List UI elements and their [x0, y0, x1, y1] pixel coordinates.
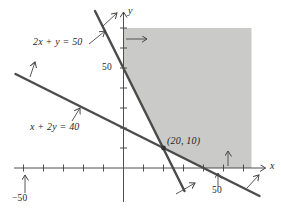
y-axis-tick-label-50: 50	[102, 63, 112, 73]
constraint2-equation-label: x + 2y = 40	[30, 122, 80, 132]
feasible-region	[124, 28, 252, 168]
label-arrow-eq2	[72, 108, 80, 121]
intersection-point-label: (20, 10)	[167, 136, 200, 146]
graph-canvas	[0, 0, 281, 213]
y-axis-label: y	[128, 6, 133, 16]
intersection-point	[161, 146, 166, 151]
halfplane-arrow-line1-bottom	[176, 183, 195, 194]
x-axis-tick-label-neg50: −50	[12, 194, 27, 204]
linear-programming-graph: 2x + y = 50 x + 2y = 40 (20, 10) 50 50 −…	[0, 0, 281, 213]
halfplane-arrow-line2-left	[30, 62, 35, 77]
x-axis-tick-label-50: 50	[212, 186, 222, 196]
label-arrow-eq1	[89, 31, 105, 44]
halfplane-arrow-line2-right	[247, 175, 259, 188]
halfplane-arrow-line1-top	[103, 13, 117, 26]
x-axis-label: x	[270, 161, 275, 171]
constraint1-equation-label: 2x + y = 50	[33, 37, 83, 47]
